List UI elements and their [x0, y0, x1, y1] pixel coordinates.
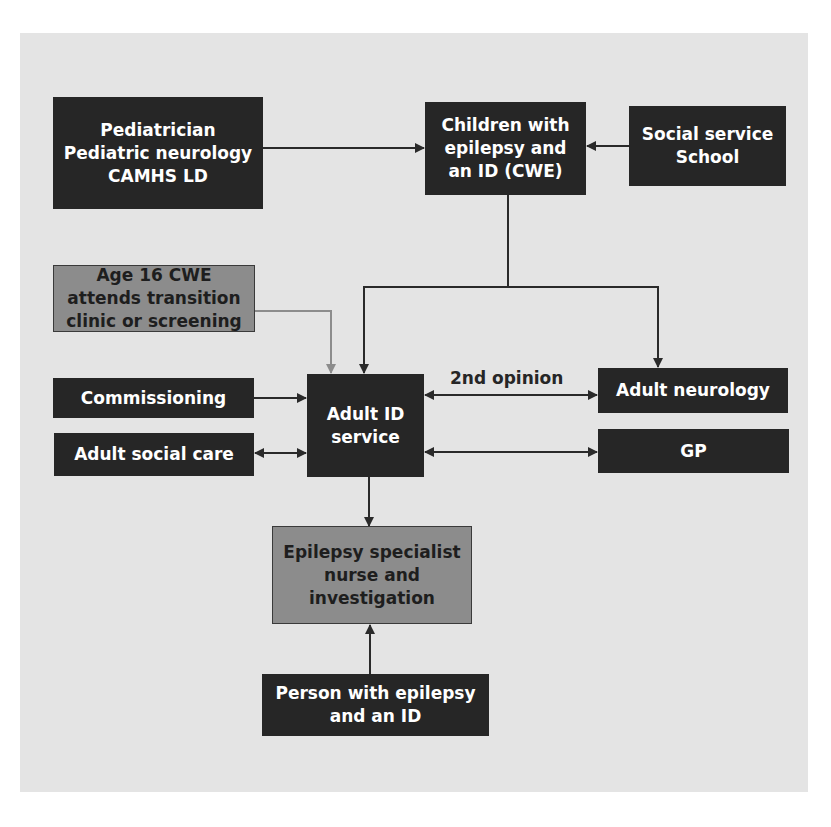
node-person-with-epilepsy: Person with epilepsy and an ID [262, 674, 489, 736]
node-adult-social-care: Adult social care [54, 433, 254, 476]
node-children-with-epilepsy: Children with epilepsy and an ID (CWE) [425, 102, 586, 195]
node-pediatrician: Pediatrician Pediatric neurology CAMHS L… [53, 97, 263, 209]
node-gp: GP [598, 429, 789, 473]
node-commissioning: Commissioning [53, 378, 254, 418]
node-adult-neurology: Adult neurology [598, 368, 788, 413]
node-epilepsy-specialist-nurse: Epilepsy specialist nurse and investigat… [272, 526, 472, 624]
edge-label-second-opinion: 2nd opinion [450, 368, 563, 388]
node-adult-id-service: Adult ID service [307, 374, 424, 477]
node-social-service-school: Social service School [629, 106, 786, 186]
node-age16-transition: Age 16 CWE attends transition clinic or … [53, 265, 255, 332]
